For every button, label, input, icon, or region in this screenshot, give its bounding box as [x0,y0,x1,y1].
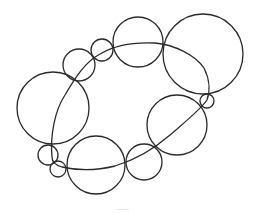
faint-mark [117,209,129,210]
circle-ring-diagram [0,0,258,213]
circles-group [17,14,243,194]
circle-bottom-small [126,144,162,180]
circle-top-right-large [163,14,243,94]
circle-top [113,17,163,67]
circle-bottom-left-tiny [50,161,66,177]
circle-upper-left-small [63,49,95,81]
